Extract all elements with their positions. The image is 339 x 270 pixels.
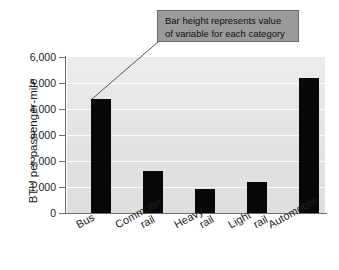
y-tick-mark-1000 [59, 187, 65, 188]
gridline-5000 [67, 83, 325, 84]
callout-text-line1: Bar height represents value [165, 15, 292, 28]
y-tick-mark-6000 [59, 57, 65, 58]
y-tick-mark-0 [59, 213, 65, 214]
y-tick-mark-2000 [59, 161, 65, 162]
y-axis-line [65, 56, 66, 214]
y-tick-mark-3000 [59, 135, 65, 136]
callout-annotation-box: Bar height represents value of variable … [157, 10, 299, 42]
y-axis-title: BTU per passenger-mile [27, 61, 39, 221]
bar-bus [91, 99, 111, 213]
bar-chart-figure: 6,000 5,000 4,000 3,000 2,000 1,000 0 BT… [0, 0, 339, 270]
y-tick-mark-5000 [59, 83, 65, 84]
y-tick-mark-4000 [59, 109, 65, 110]
plot-area [67, 57, 325, 213]
bar-automobile [299, 78, 319, 213]
y-tick-label-0: 0 [50, 208, 56, 219]
callout-text-line2: of variable for each category [165, 28, 292, 41]
